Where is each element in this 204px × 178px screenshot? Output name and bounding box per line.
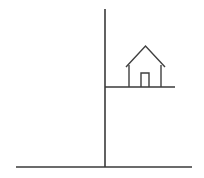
drawing-canvas — [0, 0, 204, 178]
house-door-icon — [141, 73, 149, 87]
line-drawing-svg — [0, 0, 204, 178]
house-roof-icon — [126, 46, 165, 67]
